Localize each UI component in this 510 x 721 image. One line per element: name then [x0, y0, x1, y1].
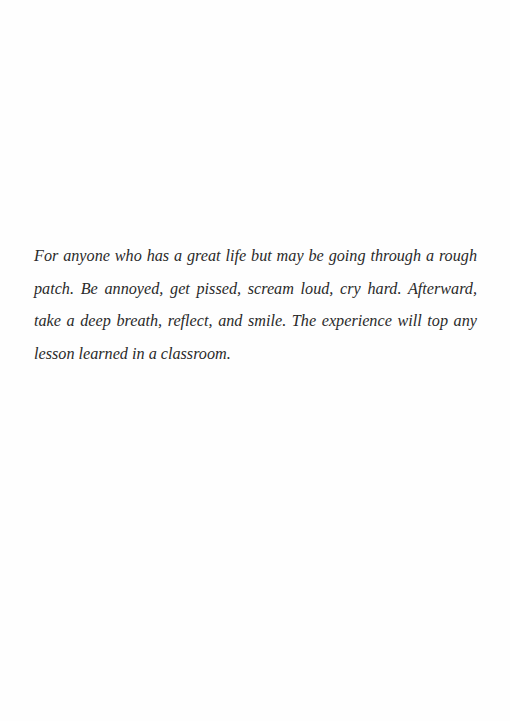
document-page: For anyone who has a great life but may …: [0, 0, 510, 721]
dedication-text: For anyone who has a great life but may …: [34, 240, 477, 370]
